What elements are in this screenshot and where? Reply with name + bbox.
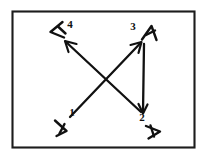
node-glyph-3	[142, 26, 157, 40]
figure-canvas: 4 3 1 2	[0, 0, 206, 163]
border-rectangle	[13, 12, 195, 148]
node-glyph-2	[146, 126, 160, 139]
node-glyph-4	[51, 22, 66, 38]
arrow-2-to-4	[65, 41, 141, 112]
node-glyph-1	[55, 121, 67, 137]
arrow-3-to-2	[139, 44, 148, 114]
label-2: 2	[139, 111, 145, 123]
label-4: 4	[67, 18, 73, 30]
label-3: 3	[130, 20, 136, 32]
hand-drawn-diagram: 4 3 1 2	[0, 0, 206, 163]
label-1: 1	[69, 106, 75, 118]
